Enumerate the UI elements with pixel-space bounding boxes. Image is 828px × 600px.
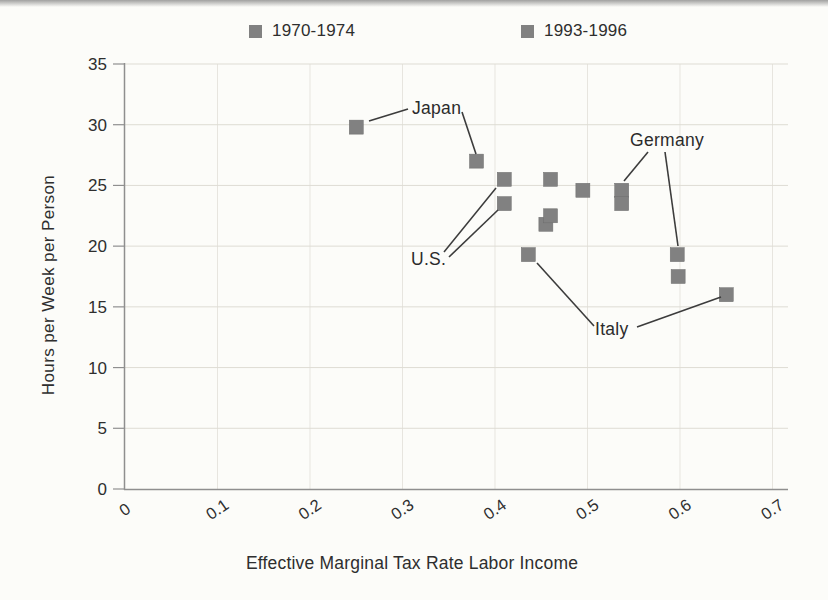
y-tick-label-0: 0 bbox=[98, 480, 107, 499]
annotation-line-italy-1 bbox=[637, 297, 721, 327]
data-point-1970-1974 bbox=[576, 183, 590, 197]
annotation-line-italy-0 bbox=[537, 263, 594, 326]
x-tick-label-0.6: 0.6 bbox=[665, 495, 694, 523]
x-axis-title: Effective Marginal Tax Rate Labor Income bbox=[246, 553, 578, 574]
data-point-1993-1996-italy bbox=[719, 288, 733, 302]
y-tick-label-20: 20 bbox=[88, 237, 107, 256]
annotation-label-us: U.S. bbox=[411, 249, 446, 269]
data-point-1970-1974-us bbox=[497, 197, 511, 211]
annotation-line-japan-1 bbox=[462, 112, 476, 154]
y-tick-label-10: 10 bbox=[88, 359, 107, 378]
y-tick-label-30: 30 bbox=[88, 116, 107, 135]
data-point-1993-1996 bbox=[544, 209, 558, 223]
y-tick-label-35: 35 bbox=[88, 55, 107, 74]
x-tick-label-0.1: 0.1 bbox=[203, 495, 232, 523]
x-tick-label-0.2: 0.2 bbox=[295, 495, 324, 523]
data-point-1993-1996-germany bbox=[670, 248, 684, 262]
data-point-1970-1974 bbox=[544, 172, 558, 186]
data-point-1993-1996-us bbox=[497, 172, 511, 186]
x-tick-label-0.5: 0.5 bbox=[573, 495, 602, 523]
x-tick-label-0.7: 0.7 bbox=[758, 495, 787, 523]
data-point-1970-1974-italy bbox=[521, 248, 535, 262]
annotation-line-germany-1 bbox=[665, 152, 678, 246]
data-point-1970-1974-japan bbox=[349, 120, 363, 134]
y-tick-label-5: 5 bbox=[98, 419, 107, 438]
x-tick-label-0.3: 0.3 bbox=[388, 495, 417, 523]
data-point-1993-1996-japan bbox=[470, 154, 484, 168]
annotation-label-japan: Japan bbox=[412, 98, 461, 118]
scatter-plot: 0510152025303500.10.20.30.40.50.60.7Japa… bbox=[0, 0, 828, 600]
annotation-line-us-1 bbox=[449, 210, 498, 257]
data-point-1993-1996 bbox=[671, 269, 685, 283]
data-point-1970-1974-germany bbox=[615, 183, 629, 197]
x-tick-label-0: 0 bbox=[116, 499, 134, 519]
y-tick-label-25: 25 bbox=[88, 176, 107, 195]
data-point-1993-1996 bbox=[615, 197, 629, 211]
annotation-line-germany-0 bbox=[624, 152, 648, 181]
annotation-label-italy: Italy bbox=[595, 319, 629, 339]
x-tick-label-0.4: 0.4 bbox=[480, 495, 509, 523]
annotation-label-germany: Germany bbox=[630, 130, 704, 150]
y-tick-label-15: 15 bbox=[88, 298, 107, 317]
